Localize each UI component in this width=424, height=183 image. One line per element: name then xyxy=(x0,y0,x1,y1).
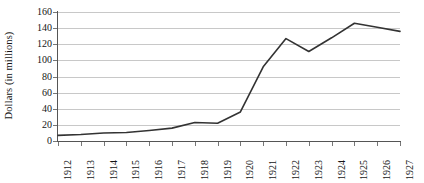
y-axis-tick-label: 160 xyxy=(37,7,52,17)
x-axis-tick-label-text: 1912 xyxy=(63,160,73,180)
x-axis-tick-label-text: 1916 xyxy=(154,160,164,180)
y-axis-tick-label: 40 xyxy=(42,104,52,114)
y-axis-tick-label: 100 xyxy=(37,55,52,65)
x-axis-tick-labels: 1912191319141915191619171918191919201921… xyxy=(58,146,400,183)
x-axis-tick-label-text: 1914 xyxy=(109,160,119,180)
line-chart-figure: Dollars (in millions) 020406080100120140… xyxy=(0,0,424,183)
x-axis-tick-mark xyxy=(400,142,401,146)
x-axis-tick-label-text: 1924 xyxy=(337,160,347,180)
x-axis-tick-label-text: 1917 xyxy=(177,160,187,180)
plot-area xyxy=(58,12,400,141)
x-axis-tick-label-text: 1915 xyxy=(131,160,141,180)
x-axis-tick-label-text: 1921 xyxy=(268,160,278,180)
y-axis-tick-label: 140 xyxy=(37,23,52,33)
data-series-polyline xyxy=(58,23,400,135)
y-axis-tick-label: 20 xyxy=(42,120,52,130)
x-axis-tick-label-text: 1926 xyxy=(382,160,392,180)
y-axis-title: Dollars (in millions) xyxy=(0,0,18,150)
x-axis-tick-label-text: 1920 xyxy=(245,160,255,180)
y-axis-tick-label: 120 xyxy=(37,39,52,49)
y-axis-tick-label: 80 xyxy=(42,72,52,82)
x-axis-tick-label-text: 1925 xyxy=(359,160,369,180)
x-axis-tick-label-text: 1918 xyxy=(200,160,210,180)
x-axis-tick-label-text: 1913 xyxy=(86,160,96,180)
data-series-line xyxy=(58,12,400,141)
x-axis-tick-label-text: 1927 xyxy=(405,160,415,180)
y-axis-tick-label: 0 xyxy=(47,136,52,146)
y-axis-title-label: Dollars (in millions) xyxy=(4,31,15,119)
x-axis-tick-label-text: 1919 xyxy=(223,160,233,180)
x-axis-tick-label-text: 1922 xyxy=(291,160,301,180)
y-axis-tick-label: 60 xyxy=(42,88,52,98)
y-axis-tick-labels: 020406080100120140160 xyxy=(18,0,56,183)
x-axis-tick-label-text: 1923 xyxy=(314,160,324,180)
